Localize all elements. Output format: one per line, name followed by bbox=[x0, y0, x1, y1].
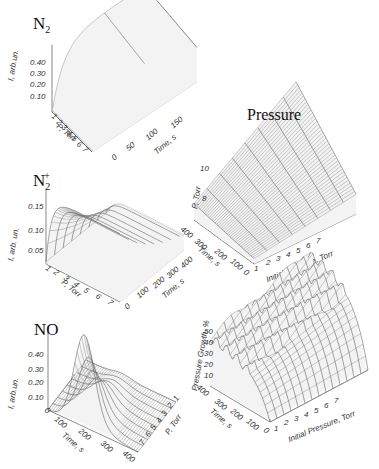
n2-ztick: 0.20 bbox=[30, 80, 46, 89]
n2plus-title: N2+ bbox=[33, 170, 50, 192]
no-ztick: 0.20 bbox=[28, 378, 44, 387]
pressure-growth-ztick: 40 bbox=[204, 338, 213, 347]
pressure-growth-xtick: 4 bbox=[304, 410, 308, 419]
chart-n2: N2 I, arb.un. 0.40 0.30 0.20 0.10 1 2 3 … bbox=[0, 0, 200, 165]
pressure-xtick: 2 bbox=[266, 258, 270, 267]
pressure-growth-ztick: 20 bbox=[204, 360, 213, 369]
n2-ztick: 0.40 bbox=[30, 58, 46, 67]
no-ztick: 0.10 bbox=[28, 393, 44, 402]
n2plus-ztick: 0.05 bbox=[28, 246, 44, 255]
chart-pressure: Pressure P, Torr 10 8 400 300 200 100 0 … bbox=[180, 100, 379, 300]
n2-title: N2 bbox=[33, 14, 50, 35]
chart-no: NO I, arb.un. 0.40 0.30 0.20 0.10 0 100 … bbox=[0, 310, 200, 469]
pressure-growth-xtick: 5 bbox=[314, 406, 318, 415]
pressure-growth-ztick: 30 bbox=[204, 349, 213, 358]
pressure-growth-xtick: 1 bbox=[274, 424, 278, 433]
pressure-xtick: 5 bbox=[296, 246, 300, 255]
n2plus-ztick: 0.10 bbox=[28, 226, 44, 235]
pressure-ztick: 8 bbox=[202, 194, 206, 203]
n2-ztick: 0.10 bbox=[30, 92, 46, 101]
pressure-xtick: 4 bbox=[286, 250, 290, 259]
pressure-growth-xtick: 3 bbox=[294, 414, 298, 423]
no-ztick: 0.30 bbox=[28, 365, 44, 374]
chart-pressure-growth: Pressure Growth, % 50 40 30 20 10 400 30… bbox=[180, 290, 379, 469]
chart-n2plus: N2+ I, arb. un. 0.15 0.10 0.05 1 2 3 4 5… bbox=[0, 160, 200, 315]
no-ztick: 0.40 bbox=[28, 350, 44, 359]
pressure-growth-ztick: 50 bbox=[204, 327, 213, 336]
n2plus-ztick: 0.15 bbox=[28, 202, 44, 211]
pressure-growth-xtick: 2 bbox=[284, 418, 288, 427]
pressure-title: Pressure bbox=[247, 106, 301, 124]
pressure-growth-xtick: 7 bbox=[334, 396, 338, 405]
pressure-xtick: 6 bbox=[306, 241, 310, 250]
n2-ztick: 0.30 bbox=[30, 69, 46, 78]
pressure-growth-ztick: 10 bbox=[204, 371, 213, 380]
pressure-xtick: 7 bbox=[316, 236, 320, 245]
pressure-ztick: 10 bbox=[200, 164, 209, 173]
pressure-growth-xtick: 6 bbox=[324, 401, 328, 410]
pressure-xtick: 1 bbox=[254, 264, 258, 273]
no-title: NO bbox=[34, 320, 59, 340]
pressure-xtick: 3 bbox=[276, 254, 280, 263]
